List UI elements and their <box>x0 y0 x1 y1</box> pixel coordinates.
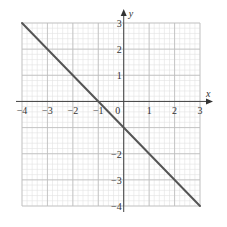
x-tick-label: 3 <box>198 105 203 116</box>
x-tick-label: −4 <box>17 105 28 116</box>
x-tick-label: −3 <box>42 105 53 116</box>
y-axis-label: y <box>128 8 134 19</box>
y-tick-label: 3 <box>117 18 122 29</box>
x-tick-label: 2 <box>172 105 177 116</box>
origin-label: 0 <box>115 105 120 116</box>
y-tick-label: −2 <box>111 149 122 160</box>
line-graph: x y −4−3−2−10123−4−3−2123 <box>0 0 227 227</box>
x-tick-label: −1 <box>93 105 104 116</box>
y-tick-label: −4 <box>111 201 122 212</box>
y-tick-label: 2 <box>117 44 122 55</box>
x-tick-label: −2 <box>68 105 79 116</box>
y-axis-arrow-icon <box>121 9 127 16</box>
x-tick-label: 1 <box>147 105 152 116</box>
x-axis-label: x <box>205 88 211 99</box>
y-tick-label: −3 <box>111 175 122 186</box>
y-tick-label: 1 <box>117 70 122 81</box>
